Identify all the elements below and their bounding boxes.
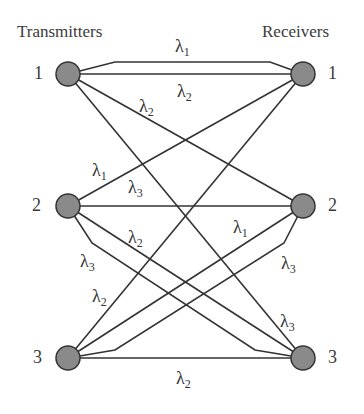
link-lines xyxy=(0,0,364,414)
wavelength-label-t3r2: λ1 xyxy=(233,217,248,241)
wavelength-label-t1r1: λ2 xyxy=(177,81,192,105)
wavelength-label-t2r2: λ3 xyxy=(128,177,143,201)
wavelength-label-t1r1-top: λ1 xyxy=(175,36,190,60)
receiver-node-2 xyxy=(291,194,315,218)
transmitter-label-3: 3 xyxy=(33,347,42,368)
receivers-heading: Receivers xyxy=(262,22,329,42)
transmitter-node-1 xyxy=(56,62,80,86)
wavelength-label-t2r3-bent: λ3 xyxy=(80,251,95,275)
transmitter-node-3 xyxy=(56,346,80,370)
transmitter-label-2: 2 xyxy=(32,195,41,216)
transmitter-node-2 xyxy=(56,194,80,218)
wavelength-label-t2r3: λ2 xyxy=(128,227,143,251)
transmitters-heading: Transmitters xyxy=(17,22,102,42)
transmitter-label-1: 1 xyxy=(34,63,43,84)
wavelength-label-t3r3: λ2 xyxy=(176,368,191,392)
wavelength-label-t3r1: λ2 xyxy=(92,286,107,310)
wdm-network-diagram: Transmitters Receivers 1 2 3 1 2 3 λ1 λ2… xyxy=(0,0,364,414)
wavelength-label-t2r1: λ1 xyxy=(92,160,107,184)
receiver-label-1: 1 xyxy=(328,63,337,84)
receiver-node-1 xyxy=(291,62,315,86)
receiver-node-3 xyxy=(291,346,315,370)
receiver-label-3: 3 xyxy=(328,347,337,368)
wavelength-label-t3r2-bent: λ3 xyxy=(281,253,296,277)
link-t1-r1-bent xyxy=(68,62,303,74)
wavelength-label-t1r3: λ3 xyxy=(280,311,295,335)
wavelength-label-t1r2: λ2 xyxy=(139,96,154,120)
receiver-label-2: 2 xyxy=(328,195,337,216)
